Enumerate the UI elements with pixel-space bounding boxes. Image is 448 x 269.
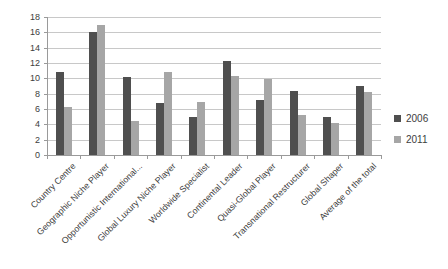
bar-2006-9 <box>356 86 364 155</box>
x-axis-tick <box>114 156 115 159</box>
y-tick-label-0: 0 <box>0 150 40 160</box>
bar-2006-0 <box>56 72 64 155</box>
x-axis-tick <box>348 156 349 159</box>
legend-label-2006: 2006 <box>406 113 428 124</box>
y-tick-label-18: 18 <box>0 12 40 22</box>
y-axis-tick <box>44 140 47 141</box>
x-axis-tick <box>381 156 382 159</box>
bar-2011-3 <box>164 72 172 155</box>
bar-chart-canvas: 024681012141618 Country CentreGeographic… <box>0 0 448 269</box>
bar-2011-2 <box>131 121 139 155</box>
bar-2006-5 <box>223 61 231 155</box>
bar-2011-9 <box>364 92 372 155</box>
y-tick-label-6: 6 <box>0 104 40 114</box>
x-category-label-6: Quasi-Global Player <box>215 161 278 224</box>
y-tick-label-4: 4 <box>0 119 40 129</box>
y-tick-label-16: 16 <box>0 27 40 37</box>
y-axis-tick <box>44 124 47 125</box>
x-axis-tick <box>80 156 81 159</box>
y-axis-tick <box>44 78 47 79</box>
legend: 2006 2011 <box>394 113 428 155</box>
plot-area <box>47 17 381 155</box>
y-tick-label-14: 14 <box>0 43 40 53</box>
y-axis-tick <box>44 17 47 18</box>
bar-2006-2 <box>123 77 131 155</box>
x-axis-tick <box>247 156 248 159</box>
gridline-y18 <box>47 17 381 18</box>
y-tick-label-2: 2 <box>0 135 40 145</box>
y-axis-tick <box>44 63 47 64</box>
y-axis-tick <box>44 94 47 95</box>
x-axis-tick <box>214 156 215 159</box>
y-tick-label-8: 8 <box>0 89 40 99</box>
bar-2006-4 <box>189 117 197 155</box>
y-axis-tick <box>44 48 47 49</box>
bar-2006-3 <box>156 103 164 155</box>
bar-2011-1 <box>97 25 105 155</box>
y-tick-label-12: 12 <box>0 58 40 68</box>
legend-item-2011: 2011 <box>394 134 428 145</box>
y-axis-tick <box>44 32 47 33</box>
bar-2011-6 <box>264 79 272 155</box>
bar-2011-0 <box>64 107 72 155</box>
x-axis-tick <box>147 156 148 159</box>
legend-label-2011: 2011 <box>406 134 428 145</box>
x-axis-tick <box>314 156 315 159</box>
y-tick-label-10: 10 <box>0 73 40 83</box>
bar-2006-6 <box>256 100 264 155</box>
x-axis-tick <box>47 156 48 159</box>
bar-2006-1 <box>89 32 97 155</box>
legend-item-2006: 2006 <box>394 113 428 124</box>
x-category-label-9: Average of the total <box>317 161 378 222</box>
legend-swatch-2006 <box>394 115 401 122</box>
bar-2011-5 <box>231 76 239 155</box>
bar-2006-8 <box>323 117 331 155</box>
bar-2011-7 <box>298 115 306 155</box>
legend-swatch-2011 <box>394 136 401 143</box>
x-axis-tick <box>181 156 182 159</box>
bar-2006-7 <box>290 91 298 155</box>
bar-2011-4 <box>197 102 205 155</box>
y-axis-tick <box>44 109 47 110</box>
x-category-label-4: Worldwide Specialist <box>147 161 211 225</box>
x-axis-tick <box>281 156 282 159</box>
bar-2011-8 <box>331 123 339 155</box>
y-axis-line <box>47 17 48 156</box>
